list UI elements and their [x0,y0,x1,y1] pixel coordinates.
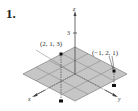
point-label-neg1-2-1: (−1, 2, 1) [92,49,119,57]
z-tick-label: 3 [67,30,70,36]
z-axis-label: z [72,6,76,12]
x-axis-label: x [27,96,31,102]
point-label-2-1-3: (2, 1, 3) [40,40,63,48]
x-arrow-icon [32,93,38,97]
projection-marker-icon [59,100,63,103]
point-marker-icon [60,53,63,56]
coordinate-diagram: z x y 3 (2, 1, 3) (−1, 2, 1) [0,0,138,111]
y-axis-label: y [117,96,121,102]
projection-marker-icon [112,84,116,87]
point-marker-icon [113,70,116,73]
